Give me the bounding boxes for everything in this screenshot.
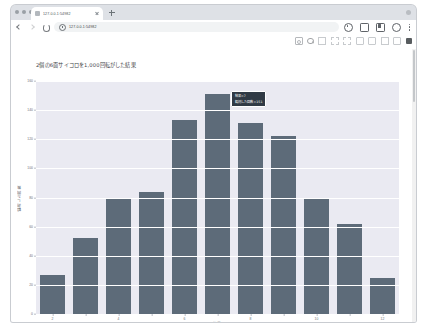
bar-chart: 2個の6面サイコロを1,000回転がした結果 観測した回数 結果=7 観測した回… [11, 34, 416, 322]
y-tick-label: 20 [29, 283, 33, 287]
tooltip-line-1: 結果=7 [235, 93, 263, 98]
y-axis-title: 観測した回数 [17, 81, 23, 314]
y-tick-label: 120 [27, 137, 33, 141]
y-tick-label: 160 [27, 79, 33, 83]
y-tick-label: 100 [27, 166, 33, 170]
grid-line [36, 81, 399, 82]
y-tick-label: 80 [29, 196, 33, 200]
kebab-menu-icon[interactable] [408, 24, 411, 31]
tab-search-icon[interactable] [406, 10, 411, 15]
y-tick-mark [34, 255, 36, 256]
y-tick-label: 0 [31, 312, 33, 316]
y-tick-label: 140 [27, 108, 33, 112]
bar[interactable] [139, 192, 165, 314]
grid-line [36, 139, 399, 140]
back-arrow-icon[interactable] [15, 23, 24, 32]
bar[interactable] [337, 224, 363, 314]
desktop-background: 127.0.0.1:54982 127.0.0.1:54982 [0, 0, 427, 332]
bar[interactable] [40, 275, 66, 314]
plot-area: 結果=7 観測した回数=151 020406080100120140160246… [36, 81, 399, 314]
minimize-window-button[interactable] [22, 10, 26, 14]
x-tick-mark [85, 314, 86, 316]
bar[interactable] [370, 278, 396, 314]
site-info-icon[interactable] [59, 24, 66, 31]
y-tick-mark [34, 110, 36, 111]
chart-title: 2個の6面サイコロを1,000回転がした結果 [36, 61, 136, 68]
grid-line [36, 198, 399, 199]
grid-line [36, 110, 399, 111]
reload-icon[interactable] [41, 23, 50, 32]
profile-icon[interactable] [392, 23, 401, 32]
url-text: 127.0.0.1:54982 [69, 25, 96, 29]
gear-icon[interactable] [344, 23, 353, 32]
vertical-scrollbar[interactable] [412, 49, 416, 322]
y-tick-mark [34, 197, 36, 198]
hover-tooltip: 結果=7 観測した回数=151 [231, 91, 266, 107]
y-tick-label: 60 [29, 225, 33, 229]
x-tick-mark [151, 314, 152, 316]
grid-line [36, 285, 399, 286]
y-tick-mark [34, 226, 36, 227]
y-tick-label: 40 [29, 254, 33, 258]
x-axis-title: 結果 [36, 320, 399, 322]
cast-icon[interactable] [360, 23, 369, 32]
bar[interactable] [271, 136, 297, 314]
x-tick-mark [349, 314, 350, 316]
tab-strip: 127.0.0.1:54982 [11, 5, 416, 20]
extensions-icon[interactable] [376, 23, 385, 32]
close-window-button[interactable] [15, 10, 19, 14]
bar[interactable] [205, 94, 231, 314]
navigation-toolbar: 127.0.0.1:54982 [11, 20, 416, 34]
tab-title: 127.0.0.1:54982 [43, 12, 92, 16]
new-tab-button[interactable] [108, 9, 116, 17]
y-tick-mark [34, 285, 36, 286]
scrollbar-thumb[interactable] [413, 50, 416, 102]
y-tick-mark [34, 168, 36, 169]
address-bar[interactable]: 127.0.0.1:54982 [54, 22, 339, 32]
close-tab-icon[interactable] [95, 12, 99, 16]
page-favicon-icon [35, 11, 40, 16]
y-tick-mark [34, 314, 36, 315]
y-tick-mark [34, 81, 36, 82]
y-tick-mark [34, 139, 36, 140]
bar[interactable] [73, 238, 99, 314]
toolbar-actions [344, 23, 411, 32]
grid-line [36, 168, 399, 169]
tooltip-line-2: 観測した回数=151 [235, 99, 263, 104]
browser-window: 127.0.0.1:54982 127.0.0.1:54982 [11, 5, 416, 322]
x-tick-mark [217, 314, 218, 316]
grid-line [36, 256, 399, 257]
x-tick-mark [283, 314, 284, 316]
forward-arrow-icon[interactable] [28, 23, 37, 32]
page-viewport: 2個の6面サイコロを1,000回転がした結果 観測した回数 結果=7 観測した回… [11, 34, 416, 322]
grid-line [36, 227, 399, 228]
browser-tab[interactable]: 127.0.0.1:54982 [31, 7, 103, 20]
